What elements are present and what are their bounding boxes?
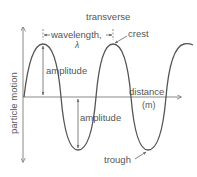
- crest-pointer: [115, 36, 127, 43]
- amplitude-bottom-label: amplitude: [80, 112, 121, 123]
- crest-label: crest: [128, 28, 149, 39]
- wavelength-label: wavelength,: [50, 29, 102, 40]
- transverse-wave-diagram: transverse wavelength, λ crest amplitude…: [0, 0, 197, 177]
- trough-pointer: [135, 152, 146, 159]
- title-label: transverse: [86, 11, 130, 22]
- amplitude-top-label: amplitude: [46, 65, 87, 76]
- x-axis-label: distance: [129, 86, 164, 97]
- trough-label: trough: [104, 154, 131, 165]
- y-axis-label: particle motion: [8, 72, 19, 134]
- x-axis-unit-label: (m): [142, 100, 156, 110]
- lambda-label: λ: [74, 40, 79, 50]
